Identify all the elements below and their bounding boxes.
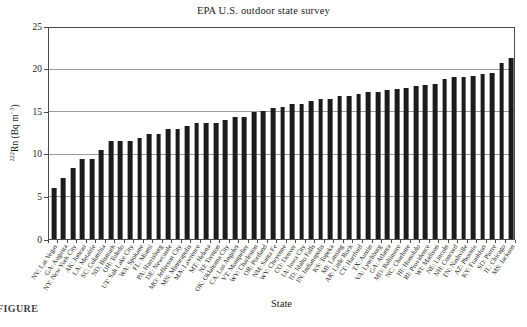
x-tick-mark (114, 240, 115, 243)
bar (118, 141, 123, 239)
x-axis-title: State (48, 298, 515, 309)
bar (204, 123, 209, 239)
bar (51, 188, 56, 239)
y-tick-label: 15 (20, 107, 42, 118)
x-tick-mark (314, 240, 315, 243)
x-tick-mark (457, 240, 458, 243)
x-tick-mark (248, 240, 249, 243)
bar (471, 76, 476, 239)
bar (252, 112, 257, 239)
y-axis-title-close: ) (10, 104, 20, 107)
bar (280, 107, 285, 239)
bar (223, 120, 228, 239)
x-tick-mark (410, 240, 411, 243)
x-tick-mark (352, 240, 353, 243)
x-tick-mark (238, 240, 239, 243)
x-tick-mark (124, 240, 125, 243)
x-tick-mark (515, 240, 516, 243)
x-tick-mark (171, 240, 172, 243)
x-tick-mark (267, 240, 268, 243)
chart-title: EPA U.S. outdoor state survey (0, 5, 527, 16)
x-tick-mark (305, 240, 306, 243)
x-tick-mark (324, 240, 325, 243)
bar (337, 96, 342, 239)
bar (366, 92, 371, 239)
x-tick-mark (57, 240, 58, 243)
x-tick-mark (67, 240, 68, 243)
bar (404, 88, 409, 239)
gridline (49, 69, 514, 70)
bar (461, 77, 466, 239)
bar (80, 159, 85, 239)
bar (61, 178, 66, 239)
x-tick-mark (210, 240, 211, 243)
bar (185, 126, 190, 239)
bar (328, 99, 333, 239)
bar (213, 123, 218, 239)
x-tick-mark (219, 240, 220, 243)
y-tick-mark (44, 197, 48, 198)
y-tick-label: 5 (20, 192, 42, 203)
bar (175, 129, 180, 239)
bar (166, 129, 171, 239)
bar (442, 79, 447, 239)
x-tick-mark (152, 240, 153, 243)
x-tick-mark (495, 240, 496, 243)
y-tick-mark (44, 69, 48, 70)
x-tick-mark (419, 240, 420, 243)
figure-page: EPA U.S. outdoor state survey 222Rn (Bq … (0, 0, 527, 327)
bar (385, 90, 390, 239)
y-tick-label: 20 (20, 64, 42, 75)
bar (318, 99, 323, 239)
x-tick-mark (143, 240, 144, 243)
bar (147, 134, 152, 239)
bar (261, 111, 266, 239)
bar (433, 84, 438, 239)
x-tick-mark (486, 240, 487, 243)
x-tick-mark (229, 240, 230, 243)
y-tick-label: 0 (20, 235, 42, 246)
bar (356, 94, 361, 239)
x-tick-mark (391, 240, 392, 243)
x-tick-mark (295, 240, 296, 243)
x-tick-mark (333, 240, 334, 243)
bar (70, 168, 75, 239)
x-tick-mark (400, 240, 401, 243)
bar (490, 73, 495, 239)
bar (299, 104, 304, 239)
x-tick-mark (372, 240, 373, 243)
x-tick-mark (343, 240, 344, 243)
y-axis-title-text: Rn (Bq m (10, 114, 20, 151)
bar (347, 96, 352, 239)
bar (242, 117, 247, 239)
x-tick-mark (381, 240, 382, 243)
figure-caption-fragment: FIGURE (0, 303, 38, 315)
bar (499, 63, 504, 239)
x-tick-mark (505, 240, 506, 243)
y-axis-title-mass-number: 222 (8, 152, 15, 162)
x-tick-mark (86, 240, 87, 243)
x-tick-mark (362, 240, 363, 243)
y-axis-title-exponent: −3 (8, 108, 15, 115)
x-tick-mark (476, 240, 477, 243)
y-tick-label: 10 (20, 149, 42, 160)
bar (194, 123, 199, 239)
x-tick-mark (429, 240, 430, 243)
x-tick-mark (181, 240, 182, 243)
bar (232, 117, 237, 239)
bar (509, 58, 514, 239)
x-tick-mark (438, 240, 439, 243)
bar (128, 141, 133, 239)
bar (414, 86, 419, 239)
x-tick-mark (162, 240, 163, 243)
x-tick-mark (95, 240, 96, 243)
bar (99, 150, 104, 239)
y-axis-title: 222Rn (Bq m−3) (8, 104, 20, 161)
bar (290, 104, 295, 239)
bar (309, 101, 314, 239)
plot-area (48, 27, 515, 240)
y-tick-label: 25 (20, 22, 42, 33)
x-tick-mark (105, 240, 106, 243)
x-tick-mark (133, 240, 134, 243)
bar (394, 89, 399, 239)
